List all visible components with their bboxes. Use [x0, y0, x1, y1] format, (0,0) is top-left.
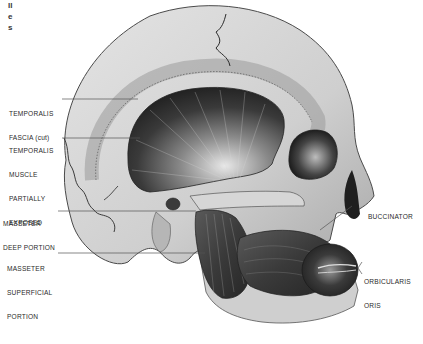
label-line: ORIS: [364, 302, 411, 310]
label-line: PARTIALLY: [9, 195, 54, 203]
label-line: MUSCLE: [9, 171, 54, 179]
label-line: MASSETER: [3, 220, 55, 228]
label-line: TEMPORALIS: [9, 110, 54, 118]
orbicularis-oris-muscle: [302, 244, 358, 296]
label-masseter-superficial: MASSETER SUPERFICIAL PORTION: [7, 249, 52, 337]
anatomy-illustration: ll e s: [0, 0, 423, 344]
label-line: MASSETER: [7, 265, 52, 273]
ear-canal: [166, 198, 180, 210]
label-line: BUCCINATOR: [368, 213, 413, 221]
label-line: PORTION: [7, 313, 52, 321]
label-line: SUPERFICIAL: [7, 289, 52, 297]
orbit: [289, 130, 337, 179]
label-orbicularis-oris: ORBICULARIS ORIS: [364, 262, 411, 326]
skull-drawing: [0, 0, 423, 344]
label-line: TEMPORALIS: [9, 147, 54, 155]
label-buccinator: BUCCINATOR: [368, 197, 413, 237]
label-line: ORBICULARIS: [364, 278, 411, 286]
